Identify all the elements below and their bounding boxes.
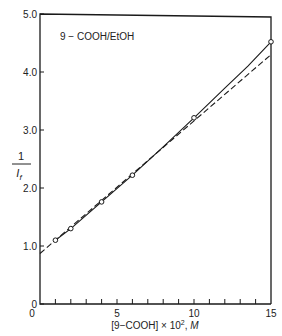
y-tick-label: 3.0 (23, 125, 37, 136)
y-tick-label: 2.0 (23, 183, 37, 194)
solid-line (55, 42, 271, 240)
x-axis-label: [9−COOH] × 102, M (111, 319, 199, 331)
chart: 01.02.03.04.05.0 051015 9 − COOH/EtOH 1 … (0, 0, 282, 336)
data-point-marker (130, 173, 135, 178)
data-point-marker (192, 116, 197, 121)
data-point-marker (99, 200, 104, 205)
x-tick-label: 0 (29, 308, 35, 319)
y-tick-label: 4.0 (23, 67, 37, 78)
chart-annotation: 9 − COOH/EtOH (60, 31, 134, 42)
x-tick-label: 15 (265, 308, 277, 319)
data-lines (40, 42, 271, 254)
data-points (53, 40, 273, 243)
y-label-numerator: 1 (18, 150, 24, 162)
data-point-marker (69, 226, 74, 231)
plot-frame (40, 14, 271, 304)
x-axis-ticks: 051015 (29, 299, 277, 319)
y-tick-label: 5.0 (23, 9, 37, 20)
y-label-denominator-sub: f (19, 173, 22, 182)
x-label-unit: M (190, 320, 199, 331)
y-axis-ticks: 01.02.03.04.05.0 (23, 9, 44, 310)
y-axis-label: 1 If (12, 150, 31, 182)
x-tick-label: 10 (188, 308, 200, 319)
y-label-denominator: If (16, 167, 22, 182)
x-tick-label: 5 (114, 308, 120, 319)
y-tick-label: 1.0 (23, 241, 37, 252)
x-label-main: [9−COOH] × 10 (111, 320, 181, 331)
data-point-marker (269, 40, 274, 45)
data-point-marker (53, 238, 58, 243)
axes-box (40, 14, 271, 304)
